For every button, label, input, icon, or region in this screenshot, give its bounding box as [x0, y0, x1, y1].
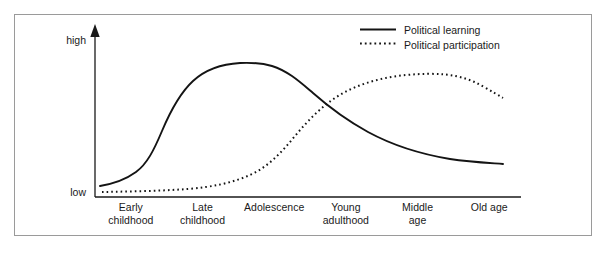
legend-item-political-learning: Political learning [356, 22, 546, 37]
x-tick-line2: childhood [95, 214, 167, 227]
figure-container: high low Early childhood Late childhood … [0, 0, 602, 258]
x-tick-young-adulthood: Young adulthood [310, 201, 382, 235]
y-axis-low-label: low [34, 186, 86, 198]
x-tick-adolescence: Adolescence [238, 201, 310, 235]
x-tick-middle-age: Middle age [382, 201, 454, 235]
x-tick-line1: Middle [382, 201, 454, 214]
x-tick-old-age: Old age [453, 201, 525, 235]
x-tick-late-childhood: Late childhood [167, 201, 239, 235]
legend-key-solid [356, 24, 396, 36]
y-axis-high-label: high [34, 34, 86, 46]
x-axis-tick-labels: Early childhood Late childhood Adolescen… [95, 201, 525, 235]
x-tick-line2: childhood [167, 214, 239, 227]
x-tick-line1: Early [95, 201, 167, 214]
legend-label-political-participation: Political participation [396, 39, 500, 51]
legend-key-dotted [356, 39, 396, 51]
legend-label-political-learning: Political learning [396, 24, 480, 36]
x-tick-line1: Late [167, 201, 239, 214]
x-tick-line2: age [382, 214, 454, 227]
x-tick-early-childhood: Early childhood [95, 201, 167, 235]
chart-legend: Political learning Political participati… [356, 22, 546, 52]
x-tick-line1: Young [310, 201, 382, 214]
x-tick-line1: Adolescence [238, 201, 310, 214]
x-tick-line2: adulthood [310, 214, 382, 227]
x-tick-line1: Old age [453, 201, 525, 214]
legend-item-political-participation: Political participation [356, 37, 546, 52]
